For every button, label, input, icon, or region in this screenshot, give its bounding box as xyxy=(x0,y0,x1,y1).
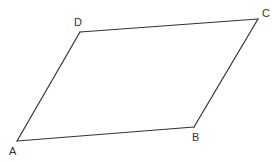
vertex-label-b: B xyxy=(192,131,199,143)
vertex-label-c: C xyxy=(262,7,270,19)
edge-cd xyxy=(80,19,258,32)
parallelogram-diagram: A B C D xyxy=(0,0,277,162)
edge-ab xyxy=(17,127,194,141)
edge-bc xyxy=(194,19,258,127)
vertex-label-d: D xyxy=(74,16,82,28)
edge-da xyxy=(17,32,80,141)
vertex-label-a: A xyxy=(9,145,17,157)
